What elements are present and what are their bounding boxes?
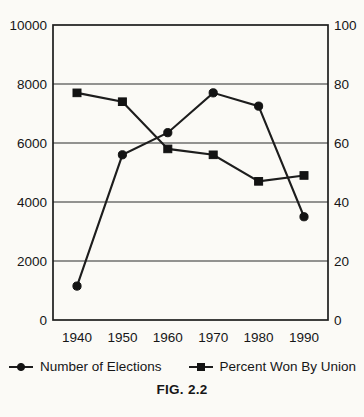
right-axis-tick-label: 20 — [334, 254, 349, 269]
left-axis-tick-label: 4000 — [17, 195, 47, 210]
data-point-square — [164, 145, 172, 153]
data-point-circle — [73, 282, 81, 290]
right-axis-tick-label: 80 — [334, 77, 349, 92]
data-point-circle — [300, 213, 308, 221]
figure-page: 0200040006000800010000020406080100194019… — [0, 0, 364, 417]
data-point-square — [73, 89, 81, 97]
data-point-circle — [118, 151, 126, 159]
x-axis-tick-label: 1940 — [62, 330, 92, 345]
legend-item-number-of-elections: Number of Elections — [8, 359, 162, 374]
figure-caption: FIG. 2.2 — [0, 382, 364, 397]
x-axis-tick-label: 1980 — [244, 330, 274, 345]
left-axis-tick-label: 8000 — [17, 77, 47, 92]
data-point-square — [209, 151, 217, 159]
data-point-circle — [209, 89, 217, 97]
data-point-square — [255, 178, 263, 186]
x-axis-tick-label: 1960 — [153, 330, 183, 345]
data-point-circle — [164, 129, 172, 137]
left-axis-tick-label: 10000 — [9, 18, 47, 33]
data-point-circle — [255, 102, 263, 110]
left-axis-tick-label: 0 — [39, 313, 47, 328]
x-axis-tick-label: 1950 — [107, 330, 137, 345]
x-axis-tick-label: 1970 — [198, 330, 228, 345]
legend-label-number-of-elections: Number of Elections — [40, 359, 162, 374]
data-point-square — [118, 98, 126, 106]
line-chart: 0200040006000800010000020406080100194019… — [0, 0, 364, 352]
chart-legend: Number of Elections Percent Won By Union — [0, 359, 364, 374]
right-axis-tick-label: 100 — [334, 18, 357, 33]
legend-item-percent-won-by-union: Percent Won By Union — [188, 359, 356, 374]
left-axis-tick-label: 2000 — [17, 254, 47, 269]
left-axis-tick-label: 6000 — [17, 136, 47, 151]
data-point-square — [300, 172, 308, 180]
square-marker-icon — [188, 362, 214, 372]
legend-label-percent-won-by-union: Percent Won By Union — [220, 359, 356, 374]
right-axis-tick-label: 0 — [334, 313, 342, 328]
series-line-0 — [77, 93, 304, 286]
right-axis-tick-label: 40 — [334, 195, 349, 210]
x-axis-tick-label: 1990 — [289, 330, 319, 345]
right-axis-tick-label: 60 — [334, 136, 349, 151]
series-line-1 — [77, 93, 304, 182]
circle-marker-icon — [8, 362, 34, 372]
